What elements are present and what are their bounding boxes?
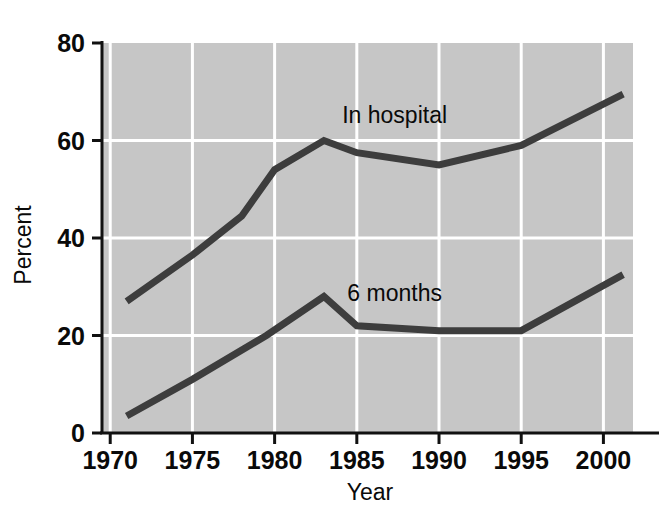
y-tick-label-80: 80 — [57, 29, 85, 57]
x-tick-label-1980: 1980 — [247, 446, 303, 474]
x-tick-label-1970: 1970 — [82, 446, 138, 474]
series-label-6-months: 6 months — [347, 280, 442, 306]
y-tick-label-0: 0 — [71, 419, 85, 447]
y-tick-label-60: 60 — [57, 127, 85, 155]
x-axis-title: Year — [347, 479, 394, 505]
y-axis-title: Percent — [10, 205, 36, 285]
x-axis-ticks — [110, 433, 603, 444]
x-tick-label-2000: 2000 — [576, 446, 632, 474]
x-tick-label-1975: 1975 — [165, 446, 221, 474]
y-tick-label-40: 40 — [57, 224, 85, 252]
chart-container: 020406080 1970197519801985199019952000 I… — [0, 0, 659, 515]
y-tick-label-20: 20 — [57, 322, 85, 350]
y-axis-tick-labels: 020406080 — [57, 29, 85, 447]
line-chart: 020406080 1970197519801985199019952000 I… — [0, 0, 659, 515]
series-label-in-hospital: In hospital — [342, 102, 447, 128]
x-axis-tick-labels: 1970197519801985199019952000 — [82, 446, 631, 474]
x-tick-label-1990: 1990 — [411, 446, 467, 474]
x-tick-label-1995: 1995 — [493, 446, 549, 474]
x-tick-label-1985: 1985 — [329, 446, 385, 474]
